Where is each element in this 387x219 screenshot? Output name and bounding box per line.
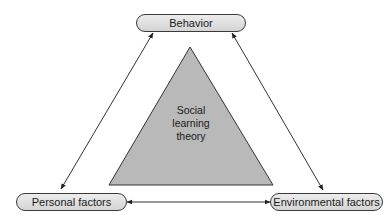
node-personal-factors-label: Personal factors: [32, 196, 111, 208]
node-environmental-factors-label: Environmental factors: [273, 196, 379, 208]
center-label-line-3: theory: [160, 130, 222, 143]
node-environmental-factors: Environmental factors: [270, 193, 383, 211]
node-behavior: Behavior: [136, 14, 246, 32]
node-personal-factors: Personal factors: [16, 193, 127, 211]
node-behavior-label: Behavior: [169, 17, 212, 29]
center-label: Social learning theory: [160, 104, 222, 143]
center-label-line-2: learning: [160, 117, 222, 130]
center-label-line-1: Social: [160, 104, 222, 117]
